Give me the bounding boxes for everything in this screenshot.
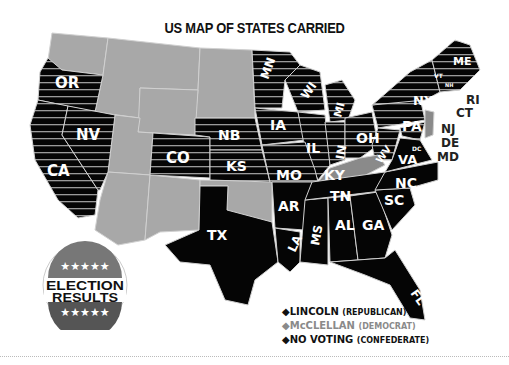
label-ky: KY [324,167,346,183]
diamond-icon: ◆ [282,334,290,345]
label-vt: VT [434,72,444,79]
legend: ◆LINCOLN (REPUBLICAN) ◆McCLELLAN (DEMOCR… [282,305,429,347]
label-nb: NB [218,127,240,143]
label-pa: PA [402,118,422,134]
label-al: AL [335,217,355,233]
label-ca: CA [47,162,70,180]
label-tn: TN [330,188,351,204]
state-nj [425,110,434,138]
label-me: ME [453,55,471,68]
label-nv: NV [76,126,101,144]
badge-top-stars: ★★★★★ [60,260,109,273]
diamond-icon: ◆ [282,320,290,331]
legend-item-mcclellan: ◆McCLELLAN (DEMOCRAT) [282,319,429,333]
dotted-divider [0,356,509,357]
label-in: IN [333,144,349,161]
label-nj: NJ [441,122,456,136]
diamond-icon: ◆ [282,306,290,317]
label-de: DE [441,136,459,150]
label-mo: MO [276,167,302,183]
label-ar: AR [278,198,300,214]
label-nh: NH [445,82,453,88]
label-ia: IA [270,117,286,133]
label-ga: GA [362,217,384,233]
label-or: OR [55,74,80,92]
legend-item-lincoln: ◆LINCOLN (REPUBLICAN) [282,305,429,319]
label-nc: NC [395,175,417,191]
state-nd-sd [195,48,255,118]
label-md: MD [437,150,459,164]
label-tx: TX [207,227,228,243]
label-ks: KS [226,158,247,174]
state-nm [145,175,200,240]
label-ct: CT [456,106,474,120]
label-oh: OH [356,130,380,146]
label-ny: NY [413,93,434,108]
state-wy [138,88,198,135]
label-ma: MA [443,91,452,97]
badge-bottom-stars: ★★★★★ [60,306,109,319]
label-co: CO [166,149,190,167]
label-sc: SC [384,192,404,208]
label-il: IL [306,140,320,156]
label-dc: DC [412,145,422,152]
badge-line2: RESULTS [52,290,118,305]
election-results-badge: ★★★★★ ELECTION RESULTS ★★★★★ [40,240,130,330]
label-ri: RI [466,93,480,107]
legend-item-no-voting: ◆NO VOTING (CONFEDERATE) [282,333,429,347]
label-va: VA [398,152,417,167]
